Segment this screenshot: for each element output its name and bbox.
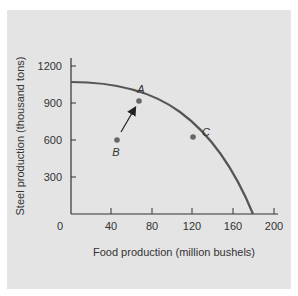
x-tick-label: 120 (183, 220, 201, 232)
x-tick-label: 40 (105, 220, 117, 232)
x-axis-title: Food production (million bushels) (93, 246, 255, 258)
point-b (114, 137, 120, 143)
y-tick-label: 900 (44, 97, 62, 109)
x-tick-label: 80 (146, 220, 158, 232)
y-tick-label: 600 (44, 134, 62, 146)
x-tick-label: 0 (57, 220, 63, 232)
point-c (190, 134, 196, 140)
point-a (136, 98, 142, 104)
y-tick-label: 300 (44, 171, 62, 183)
point-a-label: A (136, 83, 144, 95)
x-tick-label: 160 (224, 220, 242, 232)
arrow-b-to-a (121, 108, 135, 132)
y-axis-title: Steel production (thousand tons) (14, 57, 26, 216)
ppf-curve (71, 82, 253, 214)
point-b-label: B (112, 146, 119, 158)
ppf-chart: 1200 900 600 300 0 40 80 120 160 200 Foo… (0, 0, 298, 296)
y-tick-label: 1200 (38, 60, 62, 72)
point-c-label: C (202, 126, 210, 138)
x-tick-label: 200 (265, 220, 283, 232)
